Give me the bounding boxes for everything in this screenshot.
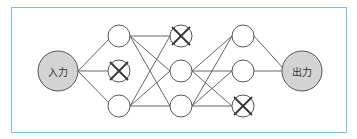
neuron — [232, 60, 254, 82]
hidden-layer-1 — [108, 25, 130, 117]
neuron — [108, 95, 130, 117]
output-label: 出力 — [292, 64, 312, 79]
hidden-layer-3 — [232, 25, 254, 117]
neuron — [170, 60, 192, 82]
hidden-layer-2 — [170, 25, 192, 117]
input-label: 入力 — [48, 64, 68, 79]
neuron — [108, 25, 130, 47]
neuron — [170, 95, 192, 117]
neuron — [232, 25, 254, 47]
